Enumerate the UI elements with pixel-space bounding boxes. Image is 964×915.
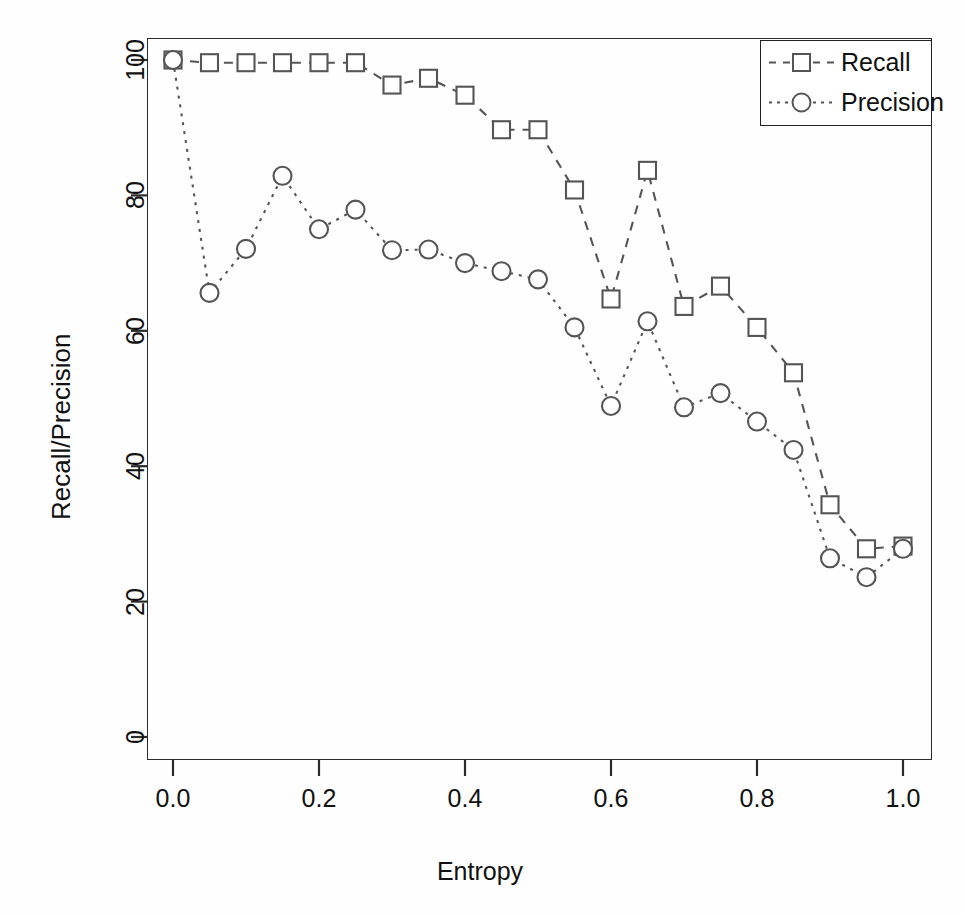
x-tick-label: 0.2 [302,784,337,813]
x-tick-label: 0.4 [448,784,483,813]
legend-key-circle-icon [767,81,837,124]
y-tick-label: 20 [121,588,150,616]
y-axis-title: Recall/Precision [46,334,77,520]
x-axis-title: Entropy [437,857,523,886]
y-tick-label: 0 [121,730,150,744]
legend-label-precision: Precision [841,88,944,117]
y-tick-label: 40 [121,452,150,480]
chart-figure: Recall/Precision Entropy Recall Precisio… [0,0,964,915]
x-tick-label: 1.0 [886,784,921,813]
legend-item-precision: Precision [761,81,933,124]
legend-key-square-icon [767,41,837,84]
x-tick-label: 0.6 [594,784,629,813]
y-tick-label: 100 [121,39,150,81]
x-tick-label: 0.0 [156,784,191,813]
x-tick-label: 0.8 [740,784,775,813]
legend-item-recall: Recall [761,41,933,84]
legend-label-recall: Recall [841,48,910,77]
y-tick-label: 80 [121,181,150,209]
y-tick-label: 60 [121,317,150,345]
legend: Recall Precision [760,40,932,126]
plot-area-border [147,38,932,760]
